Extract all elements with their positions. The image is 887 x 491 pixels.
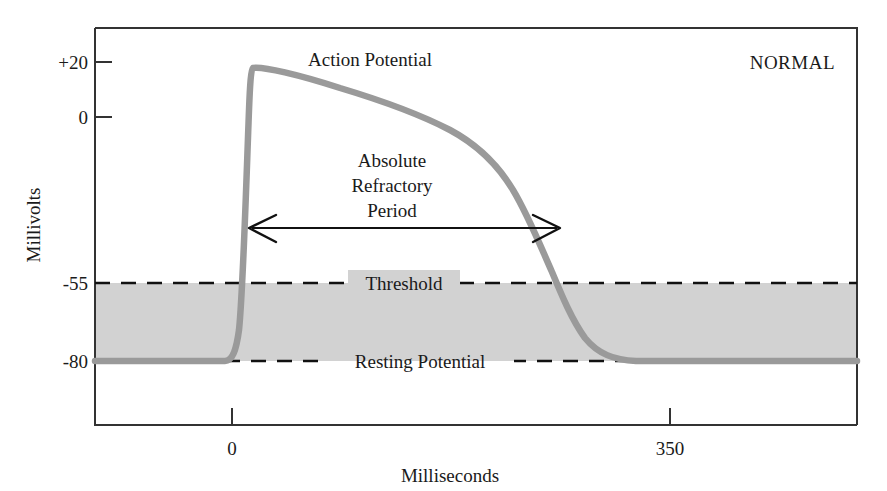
- action-potential-chart: +20 0 -55 -80 0 350 Millivolts Milliseco…: [0, 0, 887, 491]
- x-axis-title: Milliseconds: [401, 465, 499, 486]
- x-tick-label-0: 0: [227, 438, 237, 459]
- y-axis-title: Millivolts: [23, 188, 44, 263]
- action-potential-figure: +20 0 -55 -80 0 350 Millivolts Milliseco…: [0, 0, 887, 491]
- y-tick-label-minus80: -80: [63, 351, 88, 372]
- refractory-period-label-line1: Absolute: [358, 150, 427, 171]
- y-tick-label-zero: 0: [79, 107, 89, 128]
- refractory-period-label-line2: Refractory: [351, 175, 433, 196]
- refractory-period-label-line3: Period: [367, 200, 417, 221]
- resting-potential-label: Resting Potential: [355, 351, 485, 372]
- threshold-label: Threshold: [365, 273, 443, 294]
- y-tick-label-plus20: +20: [58, 52, 88, 73]
- normal-corner-label: NORMAL: [750, 52, 835, 73]
- x-tick-label-350: 350: [656, 438, 685, 459]
- action-potential-label: Action Potential: [308, 49, 432, 70]
- y-tick-label-minus55: -55: [63, 273, 88, 294]
